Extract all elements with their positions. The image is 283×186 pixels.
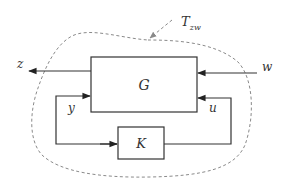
tzw-label: Tzw	[181, 14, 201, 32]
tzw-pointer-arrow	[150, 20, 172, 38]
w-label: w	[262, 60, 273, 74]
u-label: u	[209, 101, 217, 115]
plant-block-g-label: G	[138, 77, 149, 93]
controller-block-k-label: K	[135, 136, 147, 151]
lft-block-diagram: Tzw G K z w y u	[0, 0, 283, 186]
y-label: y	[67, 101, 75, 115]
z-label: z	[16, 57, 24, 71]
